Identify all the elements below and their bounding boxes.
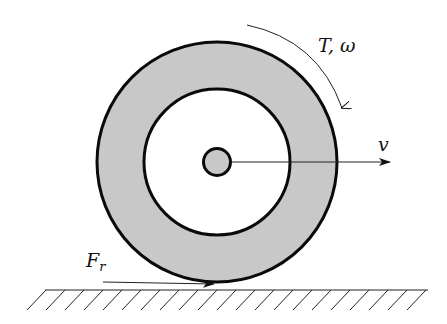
wheel-hub (204, 149, 231, 176)
friction-label: Fr (86, 251, 105, 273)
ground-surface (27, 290, 428, 310)
friction-arrow (103, 282, 214, 284)
torque-omega-label: T, ω (318, 36, 355, 55)
velocity-label: v (378, 135, 389, 154)
friction-label-subscript: r (99, 259, 105, 274)
wheel-diagram (0, 0, 447, 324)
friction-label-main: F (86, 249, 99, 271)
